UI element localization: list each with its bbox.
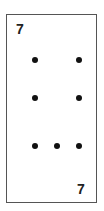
pip-dot-icon xyxy=(32,57,38,63)
rank-top-left: 7 xyxy=(16,22,24,36)
pip-dot-icon xyxy=(76,57,82,63)
pip-dot-icon xyxy=(32,95,38,101)
playing-card[interactable]: 7 7 xyxy=(6,14,97,203)
pip-dot-icon xyxy=(32,143,38,149)
pip-dot-icon xyxy=(76,143,82,149)
pip-dot-icon xyxy=(76,95,82,101)
pip-dot-icon xyxy=(54,143,60,149)
rank-bottom-right: 7 xyxy=(77,182,85,196)
